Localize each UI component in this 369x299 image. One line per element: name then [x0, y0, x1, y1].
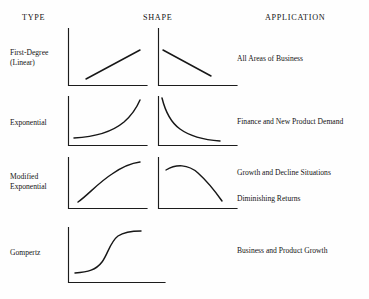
application-line1: All Areas of Business — [237, 54, 303, 64]
application-label-row3-b: Diminishing Returns — [237, 194, 301, 204]
chart-axes — [159, 158, 238, 209]
row-label-line2: (Linear) — [10, 58, 48, 68]
chart-curve — [166, 166, 222, 201]
chart-curve — [74, 100, 140, 138]
row-label-line1: Gompertz — [10, 248, 40, 258]
row-label-modified-exponential: Modified Exponential — [10, 172, 47, 192]
application-label-row1: All Areas of Business — [237, 54, 303, 64]
row-label-line1: Modified — [10, 172, 47, 182]
figure-sheet: TYPE SHAPE APPLICATION First-Degree (Lin… — [0, 0, 369, 299]
application-line1: Finance and New Product Demand — [237, 117, 343, 127]
chart-curve — [162, 98, 220, 141]
application-line1: Business and Product Growth — [237, 246, 328, 256]
chart-axes — [69, 228, 166, 283]
chart-curve — [75, 231, 141, 273]
chart-curve — [78, 162, 140, 202]
column-header-shape: SHAPE — [143, 13, 172, 22]
application-label-row2: Finance and New Product Demand — [237, 117, 343, 127]
application-label-row4: Business and Product Growth — [237, 246, 328, 256]
row-label-first-degree: First-Degree (Linear) — [10, 48, 48, 68]
chart-axes — [159, 29, 238, 86]
row-label-line1: Exponential — [10, 118, 47, 128]
row-label-line1: First-Degree — [10, 48, 48, 58]
chart-axes — [159, 97, 238, 146]
chart-modified-exponential-decline — [156, 157, 240, 211]
row-label-exponential: Exponential — [10, 118, 47, 128]
chart-modified-exponential-growth — [66, 157, 150, 211]
application-line2: Diminishing Returns — [237, 194, 301, 204]
chart-linear-increasing — [66, 28, 150, 88]
chart-linear-decreasing — [156, 28, 240, 88]
chart-curve — [86, 50, 140, 79]
column-header-type: TYPE — [22, 13, 45, 22]
application-line1: Growth and Decline Situations — [237, 168, 331, 178]
column-header-application: APPLICATION — [265, 13, 325, 22]
row-label-gompertz: Gompertz — [10, 248, 40, 258]
chart-curve — [163, 50, 211, 76]
application-label-row3-a: Growth and Decline Situations — [237, 168, 331, 178]
row-label-line2: Exponential — [10, 182, 47, 192]
chart-exponential-growth — [66, 96, 150, 148]
chart-axes — [69, 29, 148, 86]
chart-gompertz — [66, 226, 168, 286]
chart-exponential-decay — [156, 96, 240, 148]
